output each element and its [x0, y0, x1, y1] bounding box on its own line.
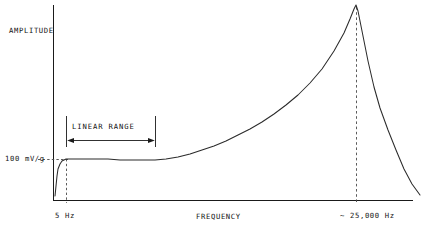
y-axis-title: AMPLITUDE [9, 27, 54, 34]
x-axis-title: FREQUENCY [196, 213, 241, 220]
sensitivity-value-label: 100 mV/g [5, 155, 45, 162]
low-frequency-tick-label: 5 Hz [55, 212, 75, 219]
frequency-response-figure: AMPLITUDE FREQUENCY 100 mV/g 5 Hz ~ 25,0… [0, 0, 429, 232]
plot-area [0, 0, 429, 232]
linear-range-annotation-label: LINEAR RANGE [72, 123, 135, 130]
resonance-frequency-tick-label: ~ 25,000 Hz [340, 212, 395, 219]
linear-range-right-arrowhead [148, 138, 155, 143]
linear-range-left-arrowhead [67, 138, 74, 143]
frequency-response-curve [55, 5, 420, 196]
